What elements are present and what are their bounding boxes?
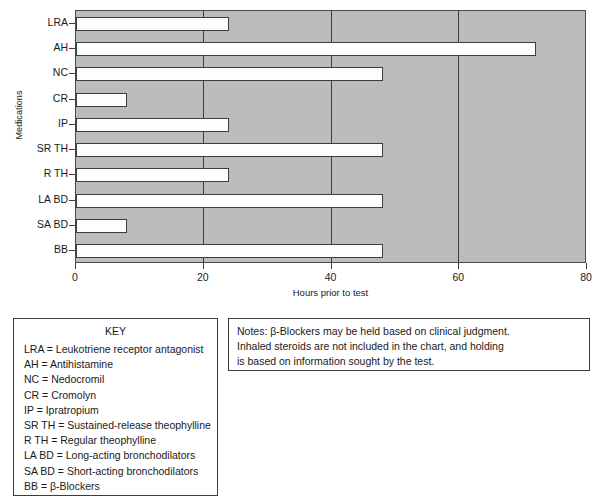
key-entry: SA BD = Short-acting bronchodilators [14,464,217,479]
key-entry: BB = β-Blockers [14,479,217,494]
key-entry: AH = Antihistamine [14,357,217,372]
notes-line: Inhaled steroids are not included in the… [229,339,589,354]
y-tick [69,174,75,175]
y-axis-label-ip: IP [0,117,68,129]
y-tick [69,23,75,24]
y-axis-label-sa-bd: SA BD [0,218,68,230]
bar-ip [76,118,229,132]
bar-row [76,244,587,258]
x-axis-title: Hours prior to test [75,287,586,298]
y-axis-label-sr-th: SR TH [0,142,68,154]
y-axis-label-la-bd: LA BD [0,193,68,205]
key-entry: IP = Ipratropium [14,403,217,418]
bar-row [76,67,587,81]
key-entry: SR TH = Sustained-release theophylline [14,418,217,433]
x-tick-20 [203,263,204,269]
bar-row [76,118,587,132]
bar-lra [76,17,229,31]
x-axis-label-0: 0 [55,271,95,283]
y-axis-label-ah: AH [0,41,68,53]
key-entry-list: LRA = Leukotriene receptor antagonistAH … [14,342,217,494]
x-axis-label-60: 60 [438,271,478,283]
notes-text: Notes: β-Blockers may be held based on c… [229,319,589,370]
bar-la-bd [76,194,383,208]
y-tick [69,48,75,49]
x-axis-label-40: 40 [311,271,351,283]
bar-row [76,143,587,157]
key-entry: CR = Cromolyn [14,388,217,403]
x-tick-0 [75,263,76,269]
notes-line: Notes: β-Blockers may be held based on c… [229,324,589,339]
bar-sa-bd [76,219,127,233]
y-tick [69,250,75,251]
bar-row [76,42,587,56]
x-tick-40 [331,263,332,269]
x-tick-80 [586,263,587,269]
key-entry: LA BD = Long-acting bronchodilators [14,448,217,463]
notes-panel: Notes: β-Blockers may be held based on c… [228,318,590,371]
bar-cr [76,93,127,107]
bar-row [76,194,587,208]
key-entry: R TH = Regular theophylline [14,433,217,448]
x-axis-label-80: 80 [566,271,602,283]
notes-line: is based on information sought by the te… [229,354,589,369]
plot-area [75,10,586,263]
x-axis-label-20: 20 [183,271,223,283]
y-tick [69,124,75,125]
y-axis-label-lra: LRA [0,16,68,28]
y-tick [69,73,75,74]
key-panel: KEY LRA = Leukotriene receptor antagonis… [13,318,218,496]
y-tick [69,99,75,100]
key-entry: LRA = Leukotriene receptor antagonist [14,342,217,357]
bar-ah [76,42,536,56]
y-axis-label-nc: NC [0,66,68,78]
y-tick [69,200,75,201]
bar-bb [76,244,383,258]
bar-row [76,219,587,233]
y-tick [69,225,75,226]
bar-row [76,168,587,182]
bar-chart: Medications LRAAHNCCRIPSR THR THLA BDSA … [0,0,602,310]
key-entry: NC = Nedocromil [14,372,217,387]
y-axis-label-r-th: R TH [0,167,68,179]
bar-r-th [76,168,229,182]
bar-row [76,93,587,107]
bar-row [76,17,587,31]
y-tick [69,149,75,150]
y-axis-label-bb: BB [0,243,68,255]
y-axis-label-cr: CR [0,92,68,104]
bar-sr-th [76,143,383,157]
key-panel-title: KEY [14,325,217,337]
bar-nc [76,67,383,81]
x-tick-60 [458,263,459,269]
